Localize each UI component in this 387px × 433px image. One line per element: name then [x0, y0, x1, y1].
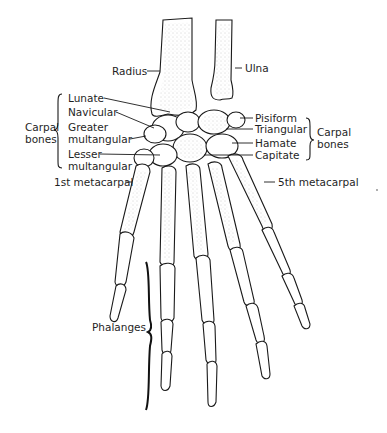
radius-bone — [151, 18, 197, 116]
hand-bones-diagram: Radius Ulna Lunate Navicular Greater mul… — [0, 0, 387, 433]
label-phalanges: Phalanges — [92, 321, 146, 333]
right-carpal-brace — [306, 118, 314, 160]
carpal-bones — [134, 110, 245, 167]
label-navicular: Navicular — [68, 106, 118, 118]
index-finger-bones — [160, 166, 176, 391]
label-carpal-bones-right-line2: bones — [317, 138, 349, 150]
label-hamate: Hamate — [255, 137, 297, 149]
label-carpal-bones-left-line1: Carpal — [25, 121, 59, 133]
label-first-metacarpal: 1st metacarpal — [54, 176, 133, 188]
label-radius: Radius — [112, 65, 147, 77]
label-lesser-multangular-line2: multangular — [68, 160, 133, 172]
phalanges-brace — [146, 262, 151, 410]
middle-finger-bones — [186, 164, 217, 407]
label-fifth-metacarpal: 5th metacarpal — [278, 176, 359, 188]
label-capitate: Capitate — [255, 149, 299, 161]
label-triangular: Triangular — [254, 123, 308, 135]
stray-dot — [376, 189, 378, 191]
ulna-bone — [211, 20, 233, 100]
label-greater-multangular-line2: multangular — [68, 133, 133, 145]
label-lunate: Lunate — [68, 92, 104, 104]
label-lesser-multangular-line1: Lesser — [68, 148, 103, 160]
label-greater-multangular-line1: Greater — [68, 121, 109, 133]
label-carpal-bones-left-line2: bones — [25, 133, 57, 145]
label-ulna: Ulna — [245, 62, 269, 74]
label-carpal-bones-right-line1: Carpal — [317, 126, 351, 138]
ring-finger-bones — [208, 162, 270, 379]
